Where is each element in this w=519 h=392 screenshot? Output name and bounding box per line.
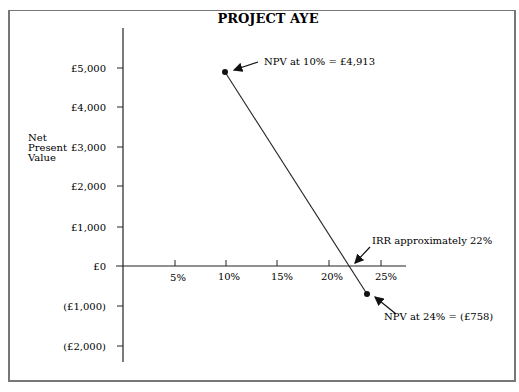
y-tick-label: £0 bbox=[93, 261, 106, 272]
x-tick-label: 15% bbox=[271, 271, 293, 282]
data-point-24pct bbox=[364, 291, 370, 297]
y-axis-label-line3: Value bbox=[27, 152, 56, 163]
y-tick-label: £1,000 bbox=[71, 222, 106, 233]
annotation-npv-10: NPV at 10% = £4,913 bbox=[264, 56, 375, 67]
x-tick-label: 25% bbox=[375, 271, 397, 282]
npv-line bbox=[225, 72, 367, 294]
chart-title: PROJECT AYE bbox=[217, 11, 318, 26]
y-tick-label: (£2,000) bbox=[63, 341, 106, 352]
x-tick-label: 20% bbox=[321, 271, 343, 282]
y-tick-label: £4,000 bbox=[71, 102, 106, 113]
y-tick-label: £5,000 bbox=[71, 63, 106, 74]
x-ticks: 5% 10% 15% 20% 25% bbox=[170, 260, 397, 283]
y-ticks: £5,000 £4,000 £3,000 £2,000 £1,000 £0 (£… bbox=[63, 63, 123, 352]
y-tick-label: £2,000 bbox=[71, 181, 106, 192]
x-tick-label: 5% bbox=[170, 272, 186, 283]
data-point-10pct bbox=[222, 69, 228, 75]
npv-chart: PROJECT AYE Net Present Value £5,000 £4,… bbox=[0, 0, 519, 392]
y-tick-label: £3,000 bbox=[71, 142, 106, 153]
annotation-npv-24: NPV at 24% = (£758) bbox=[384, 311, 493, 322]
x-tick-label: 10% bbox=[218, 271, 240, 282]
annotation-irr: IRR approximately 22% bbox=[372, 235, 492, 246]
arrow-npv-10 bbox=[234, 62, 258, 70]
arrow-irr bbox=[355, 247, 370, 263]
y-tick-label: (£1,000) bbox=[63, 301, 106, 312]
